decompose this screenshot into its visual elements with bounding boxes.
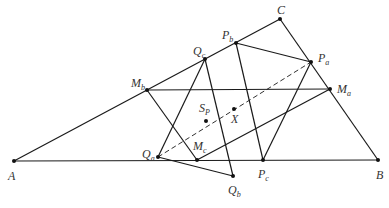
- segment-mb-mc: [147, 90, 197, 160]
- geometry-diagram: ABCPaPbPcQaQbQcMaMbMcSPX: [0, 0, 389, 208]
- point-mb: [145, 88, 149, 92]
- label-ma: Ma: [336, 82, 351, 98]
- label-pb: Pb: [221, 28, 233, 44]
- points-layer: [12, 17, 380, 178]
- segment-mb-ma: [147, 89, 330, 90]
- point-pc: [261, 158, 265, 162]
- point-x: [232, 107, 236, 111]
- point-pb: [234, 41, 238, 45]
- segment-pb-pa: [236, 43, 311, 62]
- point-a: [12, 159, 16, 163]
- label-qa: Qa: [142, 147, 155, 163]
- segment-mc-ma: [197, 89, 330, 160]
- point-mc: [195, 158, 199, 162]
- point-c: [278, 17, 282, 21]
- point-ma: [328, 87, 332, 91]
- label-mb: Mb: [130, 76, 145, 92]
- label-sp: SP: [199, 101, 210, 117]
- segment-pa-pc: [263, 62, 311, 160]
- label-c: C: [277, 3, 286, 17]
- segment-qc-qb: [205, 59, 233, 176]
- label-pc: Pc: [257, 167, 269, 183]
- point-sp: [204, 119, 208, 123]
- label-qb: Qb: [228, 183, 241, 199]
- label-qc: Qc: [193, 44, 206, 60]
- label-a: A: [7, 169, 16, 183]
- segment-pb-pc: [236, 43, 263, 160]
- label-x: X: [230, 112, 239, 126]
- labels-layer: ABCPaPbPcQaQbQcMaMbMcSPX: [7, 3, 384, 199]
- point-pa: [309, 60, 313, 64]
- point-qb: [231, 174, 235, 178]
- label-mc: Mc: [192, 139, 207, 155]
- label-pa: Pa: [317, 51, 329, 67]
- label-b: B: [376, 168, 384, 182]
- point-qa: [156, 155, 160, 159]
- point-b: [376, 158, 380, 162]
